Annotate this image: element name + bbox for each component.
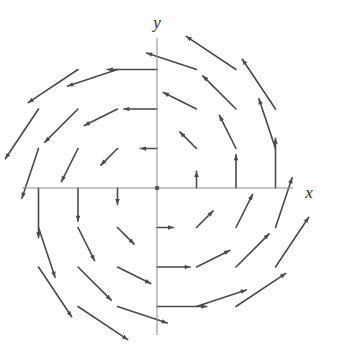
field-vector-arrow: [124, 107, 157, 112]
arrow-head: [185, 265, 191, 270]
field-vector-arrow: [197, 250, 230, 267]
arrow-head: [124, 107, 130, 112]
field-vector-arrow: [180, 132, 197, 149]
arrow-head: [194, 171, 199, 177]
field-vector-arrow: [118, 267, 151, 284]
field-vector-arrow: [147, 52, 197, 69]
arrow-shaft: [203, 76, 236, 109]
arrow-shaft: [276, 178, 293, 228]
arrow-shaft: [163, 92, 196, 109]
arrow-shaft: [197, 250, 230, 267]
arrow-head: [51, 271, 55, 277]
arrow-shaft: [186, 36, 236, 69]
field-vector-arrow: [140, 146, 157, 151]
field-vector-arrow: [101, 149, 118, 166]
arrow-head: [140, 146, 146, 151]
axes-layer: [22, 38, 293, 335]
field-vector-arrow: [236, 234, 269, 267]
arrow-shaft: [236, 234, 269, 267]
arrow-head: [147, 52, 153, 56]
field-vector-arrow: [276, 178, 293, 228]
field-vector-arrow: [118, 307, 168, 324]
field-vector-arrow: [84, 109, 117, 126]
arrow-head: [288, 178, 292, 184]
arrow-shaft: [78, 267, 111, 300]
arrow-shaft: [22, 149, 39, 199]
arrow-head: [76, 216, 81, 222]
arrow-shaft: [78, 228, 95, 261]
field-vector-arrow: [194, 171, 199, 188]
field-vector-arrow: [203, 76, 236, 109]
field-vector-arrow: [5, 109, 38, 159]
field-vector-arrow: [118, 228, 135, 245]
field-vector-arrow: [78, 267, 111, 300]
arrow-head: [168, 225, 174, 230]
arrow-shaft: [276, 217, 309, 267]
field-vector-arrow: [234, 155, 239, 188]
arrow-head: [68, 82, 74, 86]
arrow-shaft: [5, 109, 38, 159]
x-axis-label: x: [304, 183, 313, 202]
y-axis-label: y: [151, 13, 161, 32]
field-vector-arrow: [236, 194, 253, 227]
field-vector-arrow: [276, 217, 309, 267]
field-vector-arrow: [219, 115, 236, 148]
field-vector-arrow: [45, 109, 78, 142]
vector-field-figure: x y: [0, 0, 337, 347]
vector-field-plot: x y: [0, 0, 337, 347]
arrow-head: [21, 192, 25, 198]
arrow-shaft: [84, 109, 117, 126]
field-vector-arrow: [78, 307, 128, 340]
field-vector-arrow: [197, 211, 214, 228]
field-vector-arrow: [163, 92, 196, 109]
field-vector-arrow: [115, 188, 120, 205]
field-vector-arrow: [21, 149, 38, 199]
field-vector-arrow: [157, 225, 174, 230]
arrow-head: [234, 155, 239, 161]
arrow-shaft: [219, 115, 236, 148]
arrow-shaft: [118, 267, 151, 284]
arrow-shaft: [118, 307, 168, 324]
arrow-head: [115, 199, 120, 205]
arrow-shaft: [147, 53, 197, 70]
arrow-shaft: [236, 194, 253, 227]
arrow-head: [258, 99, 262, 105]
arrow-head: [273, 138, 278, 144]
origin-dot: [155, 186, 160, 191]
arrow-shaft: [78, 307, 128, 340]
arrow-head: [240, 289, 246, 293]
field-vector-arrow: [157, 265, 190, 270]
arrow-head: [107, 67, 113, 72]
field-vector-arrow: [76, 188, 81, 221]
arrow-shaft: [61, 149, 78, 182]
arrow-head: [161, 319, 167, 323]
field-vector-arrow: [186, 36, 236, 69]
field-vector-arrow: [78, 228, 95, 261]
arrow-shaft: [45, 109, 78, 142]
field-vector-arrow: [61, 149, 78, 182]
